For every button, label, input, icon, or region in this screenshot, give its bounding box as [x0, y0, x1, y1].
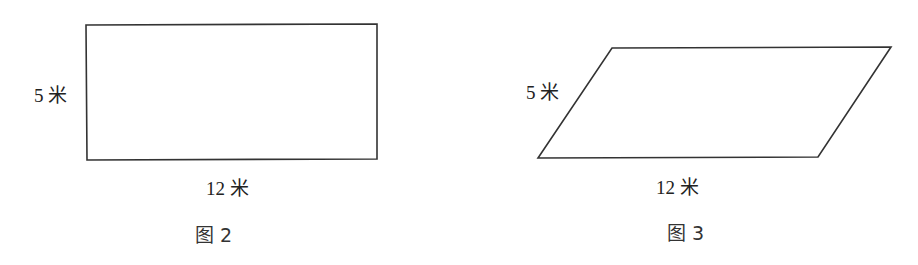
parallelogram-shape	[538, 47, 891, 158]
parallelogram-base-label: 12 米	[656, 178, 699, 197]
diagram-canvas	[0, 0, 918, 265]
parallelogram-side-label: 5 米	[526, 83, 559, 102]
figure-2-caption: 图 2	[195, 226, 232, 245]
rectangle-height-label: 5 米	[34, 86, 67, 105]
rectangle-shape	[86, 24, 377, 160]
figure-3-caption: 图 3	[667, 224, 704, 243]
rectangle-length-label: 12 米	[206, 179, 249, 198]
